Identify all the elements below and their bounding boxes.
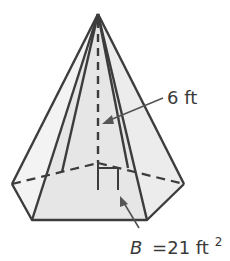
base-exponent: 2 — [215, 235, 223, 249]
base-value: =21 ft — [152, 237, 209, 258]
base-variable: B — [130, 237, 142, 258]
base-area-label: B =21 ft 2 — [130, 235, 222, 258]
height-label: 6 ft — [167, 87, 197, 108]
pyramid-diagram: 6 ft B =21 ft 2 — [0, 0, 230, 261]
